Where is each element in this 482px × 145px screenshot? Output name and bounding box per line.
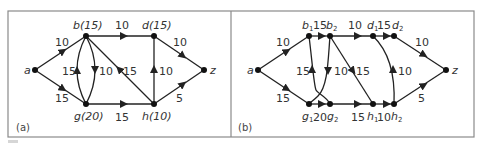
- weight-a-b: 10: [55, 36, 69, 49]
- node-d: [151, 33, 157, 39]
- node-b: [83, 33, 89, 39]
- node-g: [83, 101, 89, 107]
- weight-a-g1: 15: [276, 92, 290, 105]
- node-g1: [306, 101, 312, 107]
- weight-b2-g1: 10: [334, 65, 348, 78]
- edge-h2-d1: [373, 36, 394, 104]
- weight-g2-h1: 15: [351, 111, 365, 124]
- label-node-g1: g1: [302, 110, 313, 124]
- weight-h-d: 10: [159, 65, 173, 78]
- weight-d2-z: 10: [415, 36, 429, 49]
- node-b2: [327, 33, 333, 39]
- node-h1: [370, 101, 376, 107]
- label-node-b2: b2: [326, 19, 337, 33]
- panel-b-tag: (b): [238, 122, 252, 133]
- label-node-b1: b1: [302, 19, 313, 33]
- node-z: [443, 67, 449, 73]
- node-a: [255, 67, 261, 73]
- weight-a-g: 15: [55, 92, 69, 105]
- weight-h-z: 5: [176, 92, 183, 105]
- node-h: [151, 101, 157, 107]
- edge-h-b: [86, 36, 154, 104]
- edge-b-g: [86, 36, 95, 104]
- label-node-g2: g2: [327, 110, 338, 124]
- weight-b1-b2: 15: [313, 19, 327, 32]
- graph-figure: a b(15) d(15) g(20) h(10) z 10 15 15 10 …: [0, 0, 482, 145]
- weight-h-b: 15: [123, 65, 137, 78]
- label-node-b: b(15): [73, 19, 103, 32]
- panel-b: a z b1 b2 d1 d2 g1 g2 h1 h2 10 15 15 10 …: [238, 19, 458, 133]
- label-node-d: d(15): [142, 19, 172, 32]
- weight-g2-b1: 15: [296, 65, 310, 78]
- label-node-h: h(10): [142, 110, 172, 123]
- label-node-a: a: [24, 64, 31, 77]
- label-node-z: z: [209, 64, 216, 77]
- node-b1: [306, 33, 312, 39]
- node-d1: [370, 33, 376, 39]
- weight-a-b1: 10: [276, 36, 290, 49]
- label-node-d2: d2: [392, 19, 403, 33]
- weight-b-d: 10: [115, 19, 129, 32]
- weight-b2-d1: 10: [348, 19, 362, 32]
- label-node-a: a: [247, 64, 254, 77]
- node-z: [201, 67, 207, 73]
- label-node-g: g(20): [74, 110, 104, 123]
- weight-h2-z: 5: [418, 92, 425, 105]
- panel-a: a b(15) d(15) g(20) h(10) z 10 15 15 10 …: [16, 19, 216, 133]
- label-node-h2: h2: [391, 110, 402, 124]
- weight-b2-h1: 15: [356, 65, 370, 78]
- weight-h2-d1: 10: [398, 65, 412, 78]
- panel-a-tag: (a): [16, 122, 30, 133]
- edge-b2-g1: [309, 36, 330, 104]
- weight-d-z: 10: [173, 36, 187, 49]
- node-d2: [391, 33, 397, 39]
- weight-g-h: 15: [115, 111, 129, 124]
- caption-fragment: [8, 140, 18, 143]
- edge-g-b: [77, 36, 86, 104]
- node-h2: [391, 101, 397, 107]
- node-g2: [327, 101, 333, 107]
- weight-d1-d2: 15: [377, 19, 391, 32]
- weight-g-b: 15: [62, 65, 76, 78]
- weight-g1-g2: 20: [313, 111, 327, 124]
- label-node-z: z: [451, 64, 458, 77]
- weight-b-g: 10: [99, 65, 113, 78]
- weight-h1-h2: 10: [377, 111, 391, 124]
- node-a: [32, 67, 38, 73]
